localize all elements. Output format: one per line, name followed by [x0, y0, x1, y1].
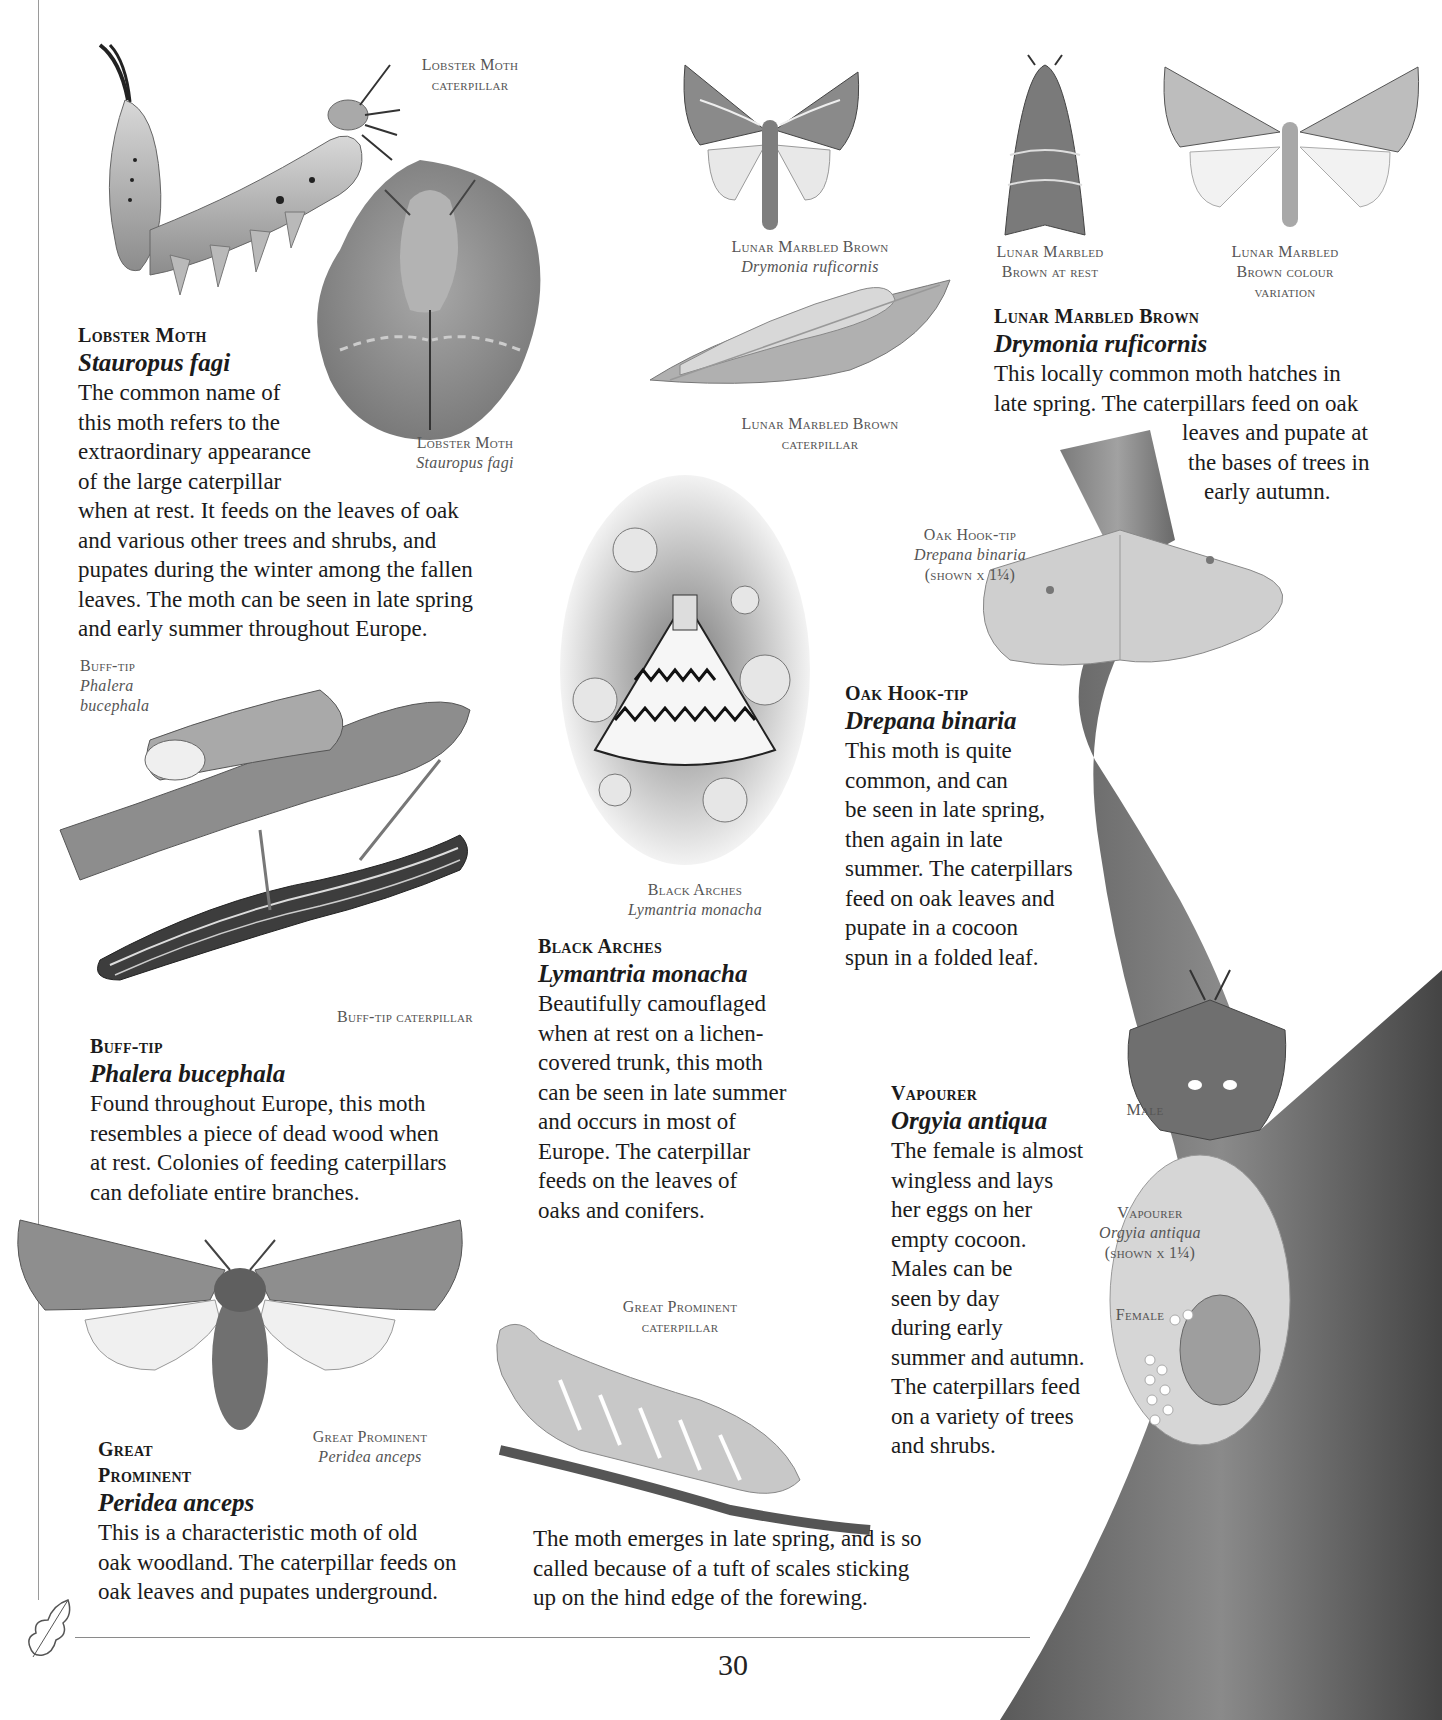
text-line: this moth refers to the: [78, 408, 473, 438]
text-line: oak leaves and pupates underground.: [98, 1577, 457, 1607]
text-line: The moth emerges in late spring, and is …: [533, 1524, 922, 1554]
caption-scientific-name: Phalera: [80, 676, 180, 696]
caption-common-name: Buff-tip: [80, 656, 180, 676]
text-line: extraordinary appearance: [78, 437, 473, 467]
caption-line: Brown colour: [1200, 262, 1370, 282]
text-line: then again in late: [845, 825, 1073, 855]
entry-vapourer: Vapourer Orgyia antiqua The female is al…: [891, 1080, 1085, 1461]
entry-description: This is a characteristic moth of old oak…: [98, 1518, 457, 1607]
caption-scale: (shown x 1¼): [1080, 1243, 1220, 1263]
lunar-colour-variation-illustration: [1160, 62, 1420, 232]
caption-common-name: Lunar Marbled Brown: [690, 237, 930, 257]
entry-scientific-name: Stauropus fagi: [78, 348, 473, 378]
caption-line: Lunar Marbled: [975, 242, 1125, 262]
entry-scientific-name: Phalera bucephala: [90, 1059, 446, 1089]
caption-scientific-name: Orgyia antiqua: [1080, 1223, 1220, 1243]
caption-line: Buff-tip caterpillar: [305, 1007, 505, 1027]
text-line: This is a characteristic moth of old: [98, 1518, 457, 1548]
caption-line: Lobster Moth: [380, 55, 560, 75]
caption-lunar-main: Lunar Marbled Brown Drymonia ruficornis: [690, 237, 930, 277]
text-line: summer. The caterpillars: [845, 854, 1073, 884]
entry-oak-hooktip: Oak Hook-tip Drepana binaria This moth i…: [845, 680, 1073, 972]
text-line: This moth is quite: [845, 736, 1073, 766]
caption-line: Male: [1105, 1100, 1185, 1120]
entry-description: Found throughout Europe, this moth resem…: [90, 1089, 446, 1207]
caption-vapourer-female: Female: [1095, 1305, 1185, 1325]
text-line: wingless and lays: [891, 1166, 1085, 1196]
caption-black-arches: Black Arches Lymantria monacha: [600, 880, 790, 920]
text-line: resembles a piece of dead wood when: [90, 1119, 446, 1149]
text-line: up on the hind edge of the forewing.: [533, 1583, 922, 1613]
text-line: can be seen in late summer: [538, 1078, 786, 1108]
caption-scientific-name: bucephala: [80, 696, 180, 716]
page-number: 30: [718, 1648, 748, 1682]
entry-scientific-name: Orgyia antiqua: [891, 1106, 1085, 1136]
caption-lunar-variation: Lunar Marbled Brown colour variation: [1200, 242, 1370, 302]
text-line: Europe. The caterpillar: [538, 1137, 786, 1167]
text-line: on a variety of trees: [891, 1402, 1085, 1432]
text-line: summer and autumn.: [891, 1343, 1085, 1373]
entry-description: The moth emerges in late spring, and is …: [533, 1524, 922, 1613]
text-line: when at rest on a lichen-: [538, 1019, 786, 1049]
text-line: covered trunk, this moth: [538, 1048, 786, 1078]
entry-scientific-name: Peridea anceps: [98, 1488, 457, 1518]
great-prominent-illustration: [15, 1220, 465, 1430]
text-line: during early: [891, 1313, 1085, 1343]
text-line: This locally common moth hatches in: [994, 359, 1369, 389]
text-line: common, and can: [845, 766, 1073, 796]
lunar-at-rest-illustration: [1000, 55, 1090, 245]
great-prominent-caterpillar-illustration: [480, 1310, 880, 1530]
entry-description: This locally common moth hatches in late…: [994, 359, 1369, 507]
lunar-caterpillar-illustration: [650, 270, 950, 400]
caption-oak-hooktip: Oak Hook-tip Drepana binaria (shown x 1¼…: [890, 525, 1050, 585]
caption-great-prominent-caterpillar: Great Prominent caterpillar: [580, 1297, 780, 1337]
caption-buff-tip-caterpillar: Buff-tip caterpillar: [305, 1007, 505, 1027]
text-line: and early summer throughout Europe.: [78, 614, 473, 644]
caption-lunar-rest: Lunar Marbled Brown at rest: [975, 242, 1125, 282]
text-line: be seen in late spring,: [845, 795, 1073, 825]
entry-great-prominent-continued: The moth emerges in late spring, and is …: [533, 1524, 922, 1613]
entry-description: The female is almost wingless and lays h…: [891, 1136, 1085, 1461]
text-line: of the large caterpillar: [78, 467, 473, 497]
caption-line: Lunar Marbled Brown: [700, 414, 940, 434]
entry-common-name: Oak Hook-tip: [845, 680, 1073, 706]
text-line: Males can be: [891, 1254, 1085, 1284]
entry-common-name: Prominent: [98, 1462, 457, 1488]
caption-scientific-name: Drymonia ruficornis: [690, 257, 930, 277]
caption-line: caterpillar: [580, 1317, 780, 1337]
text-line: feeds on the leaves of: [538, 1166, 786, 1196]
text-line: called because of a tuft of scales stick…: [533, 1554, 922, 1584]
text-line: Found throughout Europe, this moth: [90, 1089, 446, 1119]
caption-buff-tip: Buff-tip Phalera bucephala: [80, 656, 180, 716]
text-line: can defoliate entire branches.: [90, 1178, 446, 1208]
oak-leaf-icon: [18, 1595, 78, 1665]
buff-tip-illustration: [60, 660, 520, 1040]
entry-common-name: Vapourer: [891, 1080, 1085, 1106]
text-line: leaves and pupate at: [994, 418, 1369, 448]
text-line: feed on oak leaves and: [845, 884, 1073, 914]
lunar-marbled-brown-illustration: [680, 60, 860, 235]
entry-scientific-name: Lymantria monacha: [538, 959, 786, 989]
caption-line: Lunar Marbled: [1200, 242, 1370, 262]
entry-lunar-marbled-brown: Lunar Marbled Brown Drymonia ruficornis …: [994, 303, 1369, 507]
entry-common-name: Buff-tip: [90, 1033, 446, 1059]
text-line: her eggs on her: [891, 1195, 1085, 1225]
entry-scientific-name: Drymonia ruficornis: [994, 329, 1369, 359]
entry-great-prominent: Great Prominent Peridea anceps This is a…: [98, 1436, 457, 1607]
caption-vapourer-male: Male: [1105, 1100, 1185, 1120]
entry-black-arches: Black Arches Lymantria monacha Beautiful…: [538, 933, 786, 1225]
entry-description: The common name of this moth refers to t…: [78, 378, 473, 644]
entry-description: Beautifully camouflaged when at rest on …: [538, 989, 786, 1225]
caption-line: caterpillar: [380, 75, 560, 95]
entry-lobster-moth: Lobster Moth Stauropus fagi The common n…: [78, 322, 473, 644]
caption-line: variation: [1200, 282, 1370, 302]
caption-line: Brown at rest: [975, 262, 1125, 282]
entry-buff-tip: Buff-tip Phalera bucephala Found through…: [90, 1033, 446, 1207]
text-line: Beautifully camouflaged: [538, 989, 786, 1019]
text-line: The caterpillars feed: [891, 1372, 1085, 1402]
entry-scientific-name: Drepana binaria: [845, 706, 1073, 736]
caption-vapourer: Vapourer Orgyia antiqua (shown x 1¼): [1080, 1203, 1220, 1263]
text-line: pupates during the winter among the fall…: [78, 555, 473, 585]
text-line: when at rest. It feeds on the leaves of …: [78, 496, 473, 526]
oak-tree-trunk-illustration: [1000, 430, 1442, 1720]
